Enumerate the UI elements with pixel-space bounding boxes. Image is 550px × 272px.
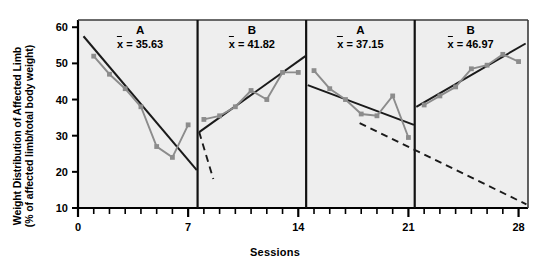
data-point-marker [217,113,222,118]
data-point-marker [516,59,521,64]
data-point-marker [500,52,505,57]
data-point-marker [375,113,380,118]
x-axis-tick-label: 28 [512,221,524,233]
data-point-marker [453,84,458,89]
phase-mean-label: x = 46.97 [447,37,493,51]
phase-letter: B [229,24,275,37]
data-point-marker [327,86,332,91]
phase-letter: B [447,24,493,37]
x-axis-tick-label: 21 [402,221,414,233]
data-point-marker [280,70,285,75]
phase-label-group: Ax = 35.63 [117,24,163,51]
phase-label-group: Ax = 37.15 [337,24,383,51]
phase-mean-label: x = 41.82 [229,37,275,51]
data-point-marker [123,86,128,91]
data-point-marker [406,135,411,140]
data-point-marker [485,63,490,68]
data-point-marker [390,94,395,99]
x-axis-tick-label: 0 [75,221,81,233]
phase-letter: A [117,24,163,37]
phase-label-group: Bx = 46.97 [447,24,493,51]
data-point-marker [201,117,206,122]
y-axis-tick-label: 50 [56,57,68,69]
data-point-marker [343,97,348,102]
chart-figure: Weight Distribution of Affected Limb (% … [0,0,550,272]
data-point-marker [312,68,317,73]
data-point-marker [186,122,191,127]
data-point-marker [437,94,442,99]
data-point-marker [264,97,269,102]
x-bar-symbol: x [229,37,235,51]
data-point-marker [296,70,301,75]
phase-mean-label: x = 37.15 [337,37,383,51]
x-bar-symbol: x [117,37,123,51]
data-point-marker [233,104,238,109]
y-axis-tick-label: 20 [56,166,68,178]
x-bar-symbol: x [337,37,343,51]
data-point-marker [422,103,427,108]
x-axis-label: Sessions [0,246,550,258]
y-axis-tick-label: 60 [56,21,68,33]
y-axis-tick-label: 30 [56,130,68,142]
phase-letter: A [337,24,383,37]
phase-label-group: Bx = 41.82 [229,24,275,51]
y-axis-tick-label: 10 [56,202,68,214]
data-point-marker [139,104,144,109]
data-point-marker [170,155,175,160]
x-axis-tick-label: 7 [185,221,191,233]
phase-mean-label: x = 35.63 [117,37,163,51]
data-point-marker [107,72,112,77]
x-bar-symbol: x [447,37,453,51]
data-point-marker [359,112,364,117]
data-point-marker [469,66,474,71]
x-axis-tick-label: 14 [292,221,304,233]
data-point-marker [91,54,96,59]
data-point-marker [249,88,254,93]
data-point-marker [154,144,159,149]
y-axis-tick-label: 40 [56,94,68,106]
